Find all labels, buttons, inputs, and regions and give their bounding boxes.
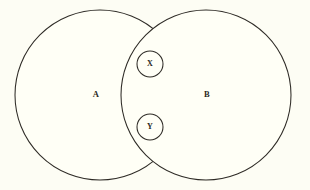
- venn-diagram-canvas: A B X Y: [0, 0, 310, 190]
- set-label-b: B: [204, 89, 210, 99]
- set-label-a: A: [93, 89, 100, 99]
- element-label-y: Y: [147, 122, 153, 131]
- venn-diagram-svg: A B X Y: [0, 0, 310, 190]
- element-label-x: X: [147, 59, 153, 68]
